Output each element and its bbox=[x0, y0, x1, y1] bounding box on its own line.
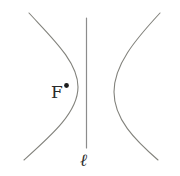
hyperbola-figure bbox=[0, 0, 180, 176]
focus-point bbox=[64, 83, 69, 88]
figure-canvas: F ℓ bbox=[0, 0, 180, 176]
directrix-label: ℓ bbox=[80, 152, 87, 169]
right-branch-curve bbox=[114, 13, 160, 160]
focus-label: F bbox=[51, 84, 63, 101]
